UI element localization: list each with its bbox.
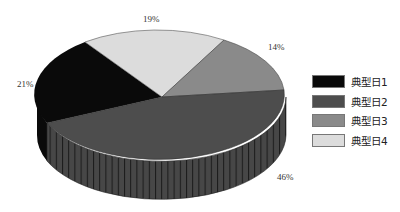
legend-item-4: 典型日4	[312, 131, 388, 151]
legend-label-3: 典型日3	[351, 113, 388, 128]
pie-top	[34, 30, 284, 159]
label-slice-4: 19%	[143, 14, 160, 24]
label-slice-1: 21%	[17, 79, 34, 89]
legend-item-2: 典型日2	[312, 92, 388, 112]
legend-swatch-2	[312, 95, 345, 108]
legend-swatch-1	[312, 75, 345, 88]
label-slice-3: 14%	[268, 42, 285, 52]
legend: 典型日1 典型日2 典型日3 典型日4	[312, 72, 388, 150]
legend-label-2: 典型日2	[351, 94, 388, 109]
legend-swatch-4	[312, 134, 345, 147]
legend-item-3: 典型日3	[312, 111, 388, 131]
legend-label-4: 典型日4	[351, 133, 388, 148]
legend-item-1: 典型日1	[312, 72, 388, 92]
legend-swatch-3	[312, 114, 345, 127]
label-slice-2: 46%	[277, 172, 294, 182]
legend-label-1: 典型日1	[351, 74, 388, 89]
